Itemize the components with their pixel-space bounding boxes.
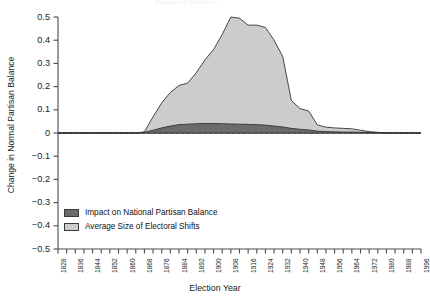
legend-swatch-icon [64, 223, 79, 231]
legend-label: Impact on National Partisan Balance [85, 208, 217, 217]
legend-swatch-icon [64, 209, 79, 217]
chart-figure: Realigning Elections Change in Normal Pa… [0, 0, 430, 301]
legend-label: Average Size of Electoral Shifts [85, 222, 200, 231]
legend-entry: Impact on National Partisan Balance [64, 208, 217, 217]
legend-entry: Average Size of Electoral Shifts [64, 222, 200, 231]
plot-area [0, 0, 430, 301]
